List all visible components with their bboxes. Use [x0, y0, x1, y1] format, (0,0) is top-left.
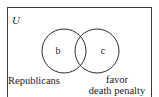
- region-label-c: c: [101, 45, 106, 56]
- caption-right-line2: death penalty: [89, 85, 146, 96]
- universal-set-label: U: [12, 14, 21, 26]
- caption-right-line1: favor: [106, 74, 129, 85]
- venn-diagram-figure: U b c Republicans favor death penalty: [0, 0, 159, 97]
- region-label-b: b: [56, 45, 61, 56]
- caption-left-republicans: Republicans: [8, 75, 60, 86]
- venn-diagram-canvas: U b c Republicans favor death penalty: [0, 0, 159, 97]
